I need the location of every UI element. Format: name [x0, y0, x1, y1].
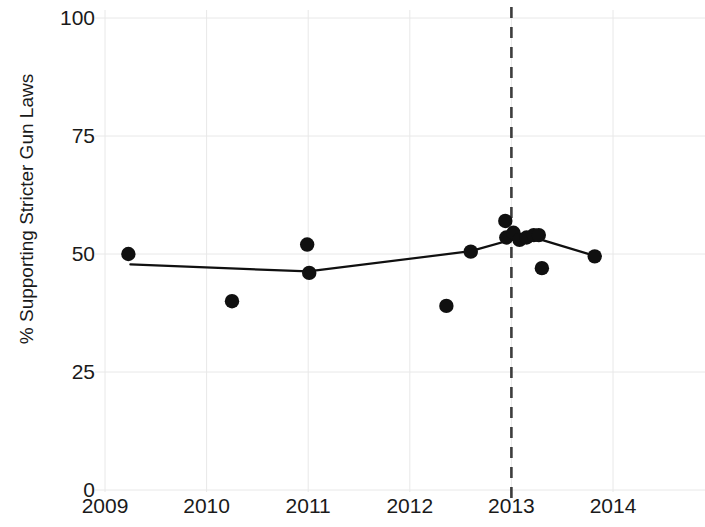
- y-axis-tick-label: 50: [37, 242, 95, 266]
- data-point: [588, 249, 602, 263]
- data-point: [302, 266, 316, 280]
- data-point: [464, 244, 478, 258]
- data-point: [498, 214, 512, 228]
- gun-laws-support-scatter-chart: 0255075100 200920102011201220132014 % Su…: [0, 0, 705, 527]
- data-point: [300, 237, 314, 251]
- plot-canvas: [0, 0, 705, 527]
- data-point: [535, 261, 549, 275]
- data-point: [439, 299, 453, 313]
- data-point: [532, 228, 546, 242]
- y-axis-tick-label: 75: [37, 124, 95, 148]
- y-axis-tick-label: 100: [37, 6, 95, 30]
- x-axis-tick-labels: 200920102011201220132014: [0, 494, 705, 527]
- data-point: [121, 247, 135, 261]
- x-axis-tick-label: 2014: [553, 494, 673, 518]
- y-axis-title: % Supporting Stricter Gun Laws: [16, 59, 38, 359]
- y-axis-tick-label: 25: [37, 360, 95, 384]
- y-axis-tick-labels: 0255075100: [0, 0, 95, 527]
- data-point: [225, 294, 239, 308]
- data-point-group: [121, 214, 602, 313]
- gridlines: [95, 10, 705, 492]
